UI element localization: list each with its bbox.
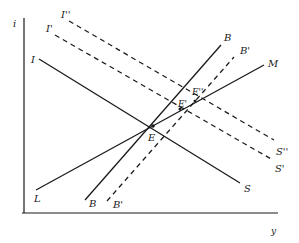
bb-curve <box>85 45 221 200</box>
lm-curve <box>36 65 264 190</box>
is-prime-start-label: I' <box>45 23 53 34</box>
bb-curve-start-label: B <box>88 198 96 209</box>
is-curves: I S I' S' I'' S'' <box>30 9 288 194</box>
bb-curves: B B B' B' <box>85 32 250 210</box>
lm-curve-end-label: M <box>267 58 279 69</box>
bb-prime-end-label: B' <box>239 45 250 56</box>
is-curve-end-label: S <box>244 183 251 194</box>
is-double-prime-end-label: S'' <box>276 146 288 157</box>
bb-prime-curve <box>107 57 234 201</box>
is-double-prime-curve <box>69 21 274 140</box>
x-axis-label: y <box>270 226 277 236</box>
equilibrium-points: E E' E'' <box>147 87 204 143</box>
is-prime-end-label: S' <box>275 163 285 174</box>
bb-curve-end-label: B <box>223 32 231 43</box>
is-double-prime-start-label: I'' <box>60 9 70 20</box>
y-axis-label: i <box>13 18 16 29</box>
point-e-label: E <box>147 132 156 143</box>
is-lm-bp-diagram: i y I S I' S' I'' S'' L M B B B' B' E E'… <box>0 0 299 243</box>
is-curve-start-label: I <box>30 54 36 65</box>
point-e-prime-label: E' <box>177 99 187 109</box>
lm-curve-start-label: L <box>33 193 41 204</box>
axes: i y <box>13 18 278 236</box>
point-e-double-prime-marker <box>194 100 197 103</box>
point-e-double-prime-label: E'' <box>191 87 204 97</box>
point-e-marker <box>151 124 155 128</box>
bb-prime-start-label: B' <box>112 199 123 210</box>
